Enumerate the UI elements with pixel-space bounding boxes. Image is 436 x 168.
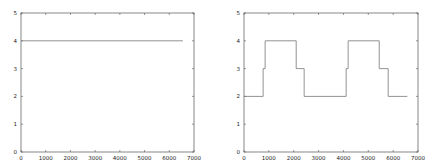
y-tick-label: 1 [14, 121, 18, 127]
y-tick-label: 2 [14, 93, 18, 99]
x-tick-label: 5000 [361, 155, 375, 161]
y-tick-label: 0 [14, 149, 18, 155]
axes-frame [244, 13, 418, 152]
data-line [244, 41, 407, 97]
y-tick-label: 1 [237, 121, 241, 127]
x-tick-label: 0 [19, 155, 23, 161]
x-tick-label: 4000 [113, 155, 127, 161]
x-tick-label: 7000 [187, 155, 201, 161]
x-tick-label: 1000 [39, 155, 53, 161]
x-tick-label: 4000 [336, 155, 350, 161]
x-tick-label: 3000 [312, 155, 326, 161]
x-tick-label: 6000 [386, 155, 400, 161]
plot-1: 01000200030004000500060007000012345 [14, 10, 202, 161]
y-tick-label: 3 [14, 66, 18, 72]
y-tick-label: 5 [14, 10, 18, 16]
y-tick-label: 2 [237, 93, 241, 99]
chart-canvas: 0100020003000400050006000700001234501000… [0, 0, 436, 168]
y-tick-label: 4 [237, 38, 241, 44]
axes-frame [21, 13, 194, 152]
x-tick-label: 0 [242, 155, 246, 161]
y-tick-label: 0 [237, 149, 241, 155]
y-tick-label: 5 [237, 10, 241, 16]
y-tick-label: 4 [14, 38, 18, 44]
x-tick-label: 6000 [162, 155, 176, 161]
x-tick-label: 5000 [138, 155, 152, 161]
x-tick-label: 7000 [411, 155, 425, 161]
x-tick-label: 2000 [287, 155, 301, 161]
x-tick-label: 1000 [262, 155, 276, 161]
x-tick-label: 3000 [88, 155, 102, 161]
plot-2: 01000200030004000500060007000012345 [237, 10, 426, 161]
x-tick-label: 2000 [63, 155, 77, 161]
y-tick-label: 3 [237, 66, 241, 72]
